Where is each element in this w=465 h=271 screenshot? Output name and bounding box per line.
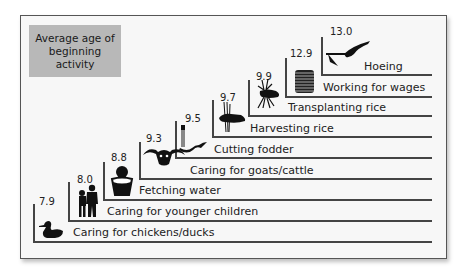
- step-line-5: [175, 157, 432, 159]
- step-riser-8: [285, 58, 287, 97]
- step-line-3: [103, 199, 432, 201]
- step-riser-3: [103, 162, 105, 200]
- children-icon: [76, 184, 100, 218]
- rice-sheaf-icon: [217, 100, 247, 134]
- activity-label: Caring for goats/cattle: [190, 164, 314, 177]
- activity-label: Cutting fodder: [214, 143, 294, 156]
- coin-stack-icon: [294, 68, 315, 95]
- activity-label: Fetching water: [139, 184, 221, 197]
- activity-label: Transplanting rice: [288, 101, 386, 114]
- step-riser-6: [212, 100, 214, 137]
- step-riser-1: [33, 204, 35, 242]
- legend-text: Average age of beginning activity: [29, 32, 121, 71]
- step-riser-7: [248, 80, 250, 116]
- step-riser-9: [321, 37, 323, 75]
- age-value: 9.5: [185, 113, 201, 124]
- step-line-9: [321, 74, 432, 76]
- duck-icon: [37, 220, 65, 240]
- step-line-6: [212, 136, 432, 138]
- step-riser-4: [139, 142, 141, 179]
- age-value: 9.3: [146, 133, 162, 144]
- step-line-1: [33, 241, 432, 243]
- age-value: 7.9: [39, 196, 55, 207]
- water-pot-icon: [110, 164, 134, 197]
- step-line-2: [68, 220, 432, 222]
- age-value: 8.8: [111, 152, 127, 163]
- step-riser-2: [68, 182, 70, 221]
- activity-label: Caring for chickens/ducks: [73, 226, 214, 239]
- rice-seedling-icon: [254, 78, 282, 110]
- activity-label: Caring for younger children: [107, 205, 258, 218]
- hoe-icon: [324, 40, 372, 70]
- legend-box: Average age of beginning activity: [29, 25, 121, 77]
- age-value: 12.9: [290, 48, 312, 59]
- age-value: 13.0: [330, 26, 352, 37]
- activity-label: Working for wages: [323, 81, 425, 94]
- sickle-icon: [177, 124, 209, 156]
- step-line-7: [248, 115, 432, 117]
- step-line-4: [139, 178, 432, 180]
- step-line-8: [285, 96, 432, 98]
- activity-label: Harvesting rice: [250, 122, 334, 135]
